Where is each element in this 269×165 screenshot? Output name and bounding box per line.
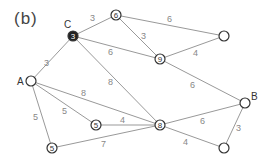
edge-9-rt [160, 36, 224, 59]
weight-c-9: 6 [108, 47, 113, 57]
node-b [240, 98, 250, 108]
weight-top-rt: 6 [167, 14, 172, 24]
node-top-value: 6 [114, 11, 119, 20]
node-c-value: 3 [71, 32, 76, 41]
edge-a-c [31, 36, 73, 81]
weight-b-br: 3 [236, 123, 241, 133]
nodes: 3 6 9 8 5 5 [26, 10, 250, 153]
weight-a-bot5: 5 [33, 112, 38, 122]
node-9-value: 9 [158, 55, 163, 64]
weight-bot5-8: 7 [101, 139, 106, 149]
node-mid5-value: 5 [94, 121, 99, 130]
edge-8-br [160, 125, 224, 148]
label-a: A [17, 76, 24, 87]
edge-top-9 [116, 15, 160, 59]
edge-9-b [160, 59, 245, 103]
edges [31, 15, 245, 148]
node-right-top [219, 31, 229, 41]
weight-a-mid5: 5 [62, 106, 67, 116]
node-8-value: 8 [158, 121, 163, 130]
label-b: B [251, 91, 258, 102]
edge-a-mid5 [31, 81, 96, 125]
weight-a-c: 3 [44, 58, 49, 68]
weight-a-8: 8 [81, 88, 86, 98]
edge-b-br [224, 103, 245, 148]
weight-c-8: 8 [108, 77, 113, 87]
weight-c-top: 3 [90, 13, 95, 23]
weight-8-b: 6 [200, 116, 205, 126]
node-bottom-right [219, 143, 229, 153]
edge-c-8 [73, 36, 160, 125]
node-a [26, 76, 36, 86]
graph-diagram: 3 3 6 3 6 4 8 6 8 5 5 4 7 6 4 3 3 6 9 8 … [0, 0, 269, 165]
weight-9-rt: 4 [193, 48, 198, 58]
weight-8-br: 4 [183, 137, 188, 147]
weight-mid5-8: 4 [120, 115, 125, 125]
weight-top-9: 3 [141, 31, 146, 41]
node-bot5-value: 5 [50, 144, 55, 153]
edge-c-9 [73, 36, 160, 59]
edge-a-8 [31, 81, 160, 125]
label-c: C [64, 19, 71, 30]
weight-9-b: 6 [190, 80, 195, 90]
